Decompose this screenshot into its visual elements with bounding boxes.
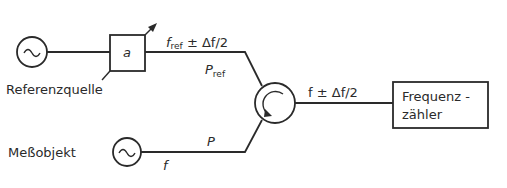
circulation-arrowhead-icon	[264, 109, 272, 117]
circulator-icon	[255, 83, 295, 123]
ref-frequency-label: fref ± Δf/2	[166, 35, 228, 51]
reference-source-label: Referenzquelle	[6, 82, 103, 97]
sine-wave-icon	[119, 150, 135, 157]
ref-power-label: Pref	[205, 62, 226, 79]
attenuator-arrow-tail	[102, 71, 110, 80]
counter-label-line1: Frequenz -	[402, 89, 470, 104]
counter-label-line2: zähler	[402, 107, 443, 122]
dut-to-circulator-line	[141, 120, 262, 152]
measurement-object-label: Meßobjekt	[8, 145, 76, 160]
dut-power-label: P	[207, 134, 215, 149]
attenuator-symbol: a	[123, 45, 131, 60]
ref-to-circulator-line	[145, 52, 262, 86]
sine-wave-icon	[24, 50, 40, 57]
dut-frequency-label: f	[163, 158, 170, 173]
block-diagram: a Referenzquelle Meßobjekt fref ± Δf/2 P…	[0, 0, 507, 188]
output-frequency-label: f ± Δf/2	[308, 85, 358, 100]
